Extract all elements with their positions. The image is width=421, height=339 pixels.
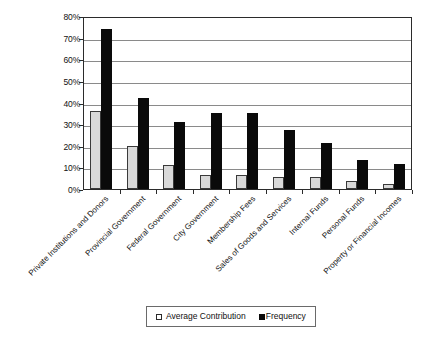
bar-group <box>267 18 304 189</box>
bar-average-contribution <box>90 111 101 189</box>
y-axis-tick-label: 80% <box>40 13 80 22</box>
bar-group <box>340 18 377 189</box>
y-axis-tick-label: 20% <box>40 143 80 152</box>
bar-group <box>376 18 413 189</box>
y-axis-tick-mark <box>79 147 83 148</box>
bar-frequency <box>174 122 185 189</box>
bar-frequency <box>101 29 112 189</box>
bar-average-contribution <box>383 184 394 189</box>
legend-swatch-dark-icon <box>259 314 265 320</box>
bar-frequency <box>247 113 258 189</box>
x-axis-tick-mark <box>193 190 194 194</box>
x-axis-category-label: Provincial Government <box>0 194 147 339</box>
bar-group <box>121 18 158 189</box>
y-axis-tick-label: 30% <box>40 121 80 130</box>
bar-group <box>194 18 231 189</box>
y-axis-tick-label: 40% <box>40 100 80 109</box>
x-axis-tick-mark <box>375 190 376 194</box>
x-axis-tick-mark <box>339 190 340 194</box>
legend-item: Average Contribution <box>156 312 246 321</box>
y-axis-tick-mark <box>79 17 83 18</box>
y-axis: 80%70%60%50%40%30%20%10%0% <box>40 10 80 197</box>
y-axis-tick-label: 60% <box>40 56 80 65</box>
y-axis-tick-label: 70% <box>40 35 80 44</box>
bar-frequency <box>284 130 295 189</box>
x-axis-tick-mark <box>229 190 230 194</box>
legend-label: Average Contribution <box>166 312 246 321</box>
bar-average-contribution <box>273 177 284 189</box>
chart-legend: Average ContributionFrequency <box>146 306 316 327</box>
legend-label: Frequency <box>266 312 306 321</box>
bar-frequency <box>211 113 222 189</box>
y-axis-tick-mark <box>79 60 83 61</box>
y-axis-tick-mark <box>79 82 83 83</box>
bar-average-contribution <box>310 177 321 189</box>
bar-average-contribution <box>346 181 357 189</box>
bar-group <box>230 18 267 189</box>
y-axis-tick-mark <box>79 125 83 126</box>
bar-average-contribution <box>127 146 138 189</box>
y-axis-tick-mark <box>79 168 83 169</box>
y-axis-tick-mark <box>79 190 83 191</box>
x-axis-tick-mark <box>412 190 413 194</box>
y-axis-tick-mark <box>79 39 83 40</box>
x-axis-tick-mark <box>266 190 267 194</box>
legend-item: Frequency <box>259 312 306 321</box>
x-axis-tick-mark <box>156 190 157 194</box>
y-axis-tick-mark <box>79 104 83 105</box>
legend-swatch-light-icon <box>156 314 162 320</box>
bar-frequency <box>321 143 332 189</box>
x-axis-tick-mark <box>120 190 121 194</box>
bar-frequency <box>394 164 405 189</box>
bar-group <box>303 18 340 189</box>
plot-area <box>83 17 412 190</box>
x-axis-category-labels: Private Institutions and DonorsProvincia… <box>0 190 421 300</box>
bar-average-contribution <box>236 175 247 189</box>
bar-group <box>157 18 194 189</box>
bar-group <box>84 18 121 189</box>
y-axis-tick-label: 50% <box>40 78 80 87</box>
x-axis-tick-mark <box>302 190 303 194</box>
bar-average-contribution <box>200 175 211 189</box>
bar-average-contribution <box>163 165 174 189</box>
y-axis-tick-label: 10% <box>40 164 80 173</box>
bar-frequency <box>357 160 368 189</box>
bar-frequency <box>138 98 149 189</box>
bar-chart-figure: 80%70%60%50%40%30%20%10%0% Private Insti… <box>0 0 421 339</box>
